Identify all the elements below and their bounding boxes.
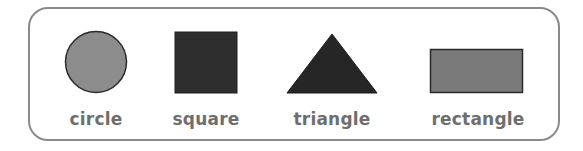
triangle-label: triangle [272,109,392,129]
square-shape [175,32,237,93]
rectangle-shape [431,50,523,93]
rectangle-label: rectangle [418,109,538,129]
circle-shape [66,32,127,93]
triangle-shape [287,34,377,93]
square-label: square [146,109,266,129]
circle-label: circle [36,109,156,129]
